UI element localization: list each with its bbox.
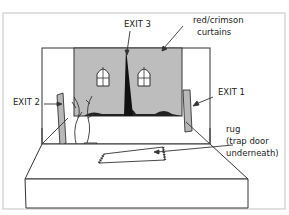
label-rug: rug xyxy=(226,124,240,134)
stage-front xyxy=(25,179,248,208)
stage-diagram: EXIT 3 red/crimson curtains EXIT 2 EXIT … xyxy=(0,0,289,215)
label-exit2: EXIT 2 xyxy=(13,97,40,107)
stage-illustration xyxy=(0,0,289,215)
label-rug-line2: (trap door xyxy=(226,136,269,146)
label-rug-line3: underneath) xyxy=(226,148,279,158)
label-exit3: EXIT 3 xyxy=(124,19,151,29)
label-curtains-line2: curtains xyxy=(197,27,231,37)
label-curtains-line1: red/crimson xyxy=(193,15,244,25)
label-exit1: EXIT 1 xyxy=(218,87,245,97)
